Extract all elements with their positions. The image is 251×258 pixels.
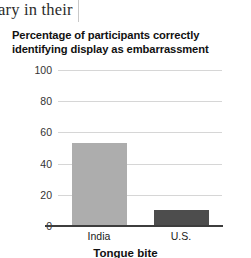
x-axis-tick-label: India	[58, 230, 140, 242]
gridline	[58, 70, 222, 71]
x-axis-tick-label: U.S.	[140, 230, 222, 242]
y-axis-tick-label: 60	[12, 126, 52, 138]
x-axis-line	[45, 225, 223, 227]
plot-area	[58, 70, 222, 226]
y-axis-tick-label: 100	[12, 64, 52, 76]
y-axis-tick-label: 20	[12, 189, 52, 201]
figure-caption: Tongue bite	[0, 246, 251, 258]
gridline	[58, 132, 222, 133]
x-axis-tick-labels: IndiaU.S.	[58, 230, 222, 246]
bar-india	[72, 143, 127, 226]
column-divider-rule	[78, 0, 79, 22]
body-text-fragment: ary in their	[0, 0, 73, 20]
gridline	[58, 101, 222, 102]
page-text-fragment: ary in their	[0, 0, 251, 26]
y-axis-tick-labels: 020406080100	[8, 70, 52, 226]
chart-title: Percentage of participants correctly ide…	[12, 29, 248, 56]
bar-u-s	[154, 210, 209, 226]
y-axis-tick-label: 80	[12, 95, 52, 107]
y-axis-tick-label: 40	[12, 158, 52, 170]
bar-chart-figure: Percentage of participants correctly ide…	[0, 26, 251, 258]
